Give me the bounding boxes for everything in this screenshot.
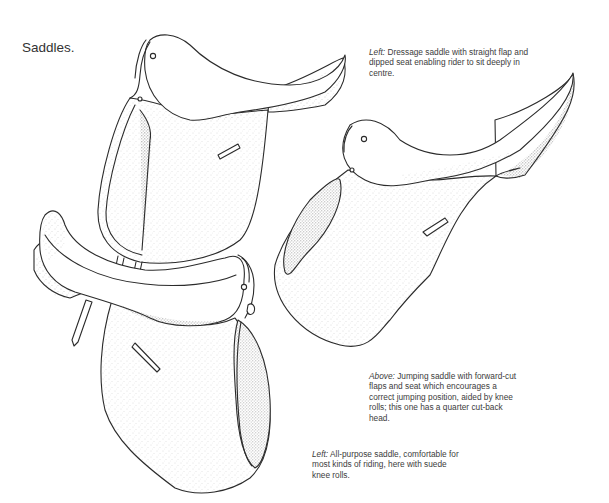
jumping-saddle-drawing: [274, 73, 574, 346]
saddle-illustrations: [0, 0, 609, 503]
